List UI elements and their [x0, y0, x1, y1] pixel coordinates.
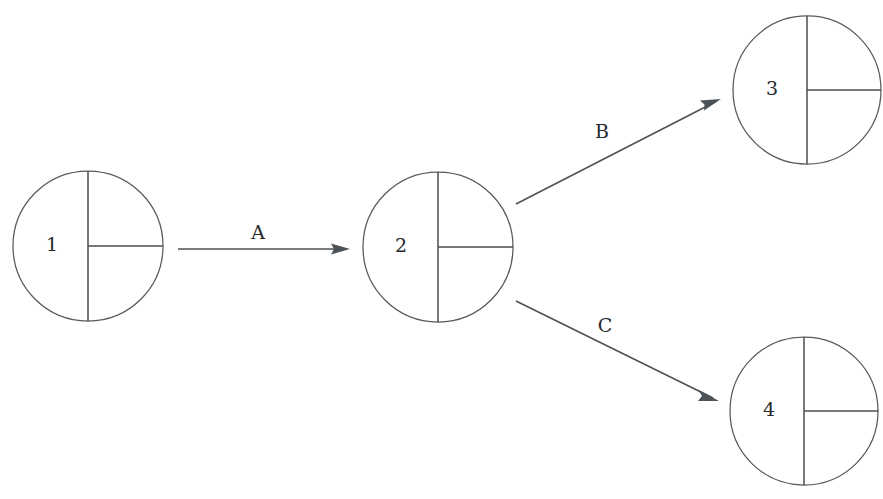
node-group: 1 2 3 4 — [13, 16, 881, 485]
edge-c-arrowhead — [698, 390, 719, 402]
edge-b[interactable]: B — [516, 99, 721, 204]
edge-c-line — [516, 301, 713, 398]
edge-a-label: A — [250, 221, 265, 243]
node-2[interactable]: 2 — [363, 172, 513, 322]
edge-a[interactable]: A — [178, 221, 350, 255]
node-4-label: 4 — [763, 398, 775, 420]
node-4[interactable]: 4 — [730, 337, 878, 485]
diagram-canvas: A B C 1 — [0, 0, 883, 499]
edge-c-label: C — [598, 314, 613, 336]
edge-b-label: B — [595, 120, 609, 142]
diagram-svg: A B C 1 — [0, 0, 883, 499]
node-1-label: 1 — [46, 233, 58, 255]
edge-b-line — [516, 102, 715, 204]
node-2-label: 2 — [395, 234, 407, 256]
node-1[interactable]: 1 — [13, 171, 163, 321]
edge-c[interactable]: C — [516, 301, 719, 401]
node-3[interactable]: 3 — [733, 16, 881, 164]
node-3-label: 3 — [766, 77, 778, 99]
